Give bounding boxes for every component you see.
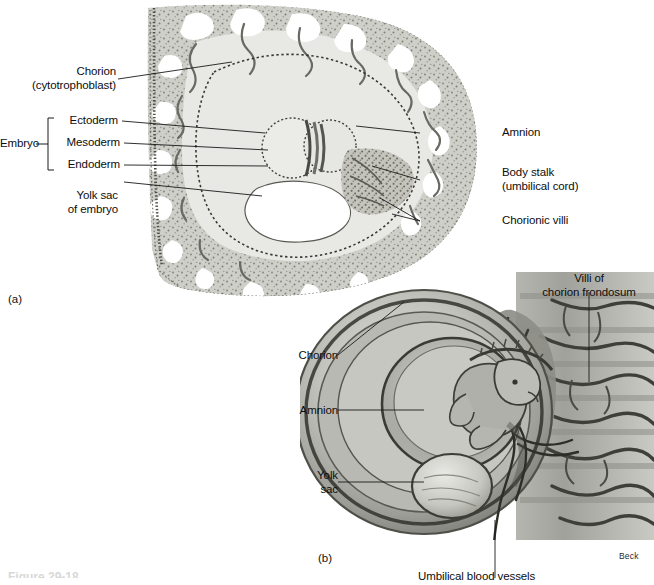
label-yolk-sac-b: Yolk sac (240, 469, 338, 496)
panel-a-tissue (147, 3, 476, 305)
label-umbilical-blood-vessels: Umbilical blood vessels (418, 570, 535, 584)
label-yolk-sac-of-embryo: Yolk sac of embryo (0, 189, 118, 216)
label-body-stalk: Body stalk (umbilical cord) (502, 166, 578, 193)
label-mesoderm: Mesoderm (0, 136, 120, 150)
label-chorionic-villi: Chorionic villi (502, 214, 568, 228)
label-amnion-a: Amnion (502, 126, 540, 140)
artist-credit: Beck (619, 551, 639, 561)
figure-caption-cut: Figure 29-18 (8, 571, 79, 578)
label-chorion-cytotrophoblast: Chorion (cytotrophoblast) (0, 65, 116, 92)
label-ectoderm: Ectoderm (0, 114, 118, 128)
label-endoderm: Endoderm (0, 158, 120, 172)
panel-tag-b: (b) (318, 552, 332, 564)
figure-root: Chorion (cytotrophoblast) Embryo Ectoder… (0, 0, 654, 585)
label-chorion-b: Chorion (240, 349, 338, 363)
panel-tag-a: (a) (8, 293, 22, 305)
label-amnion-b: Amnion (240, 404, 338, 418)
label-villi-chorion-frondosum: Villi of chorion frondosum (518, 272, 654, 299)
panel-b-artwork (296, 272, 654, 546)
